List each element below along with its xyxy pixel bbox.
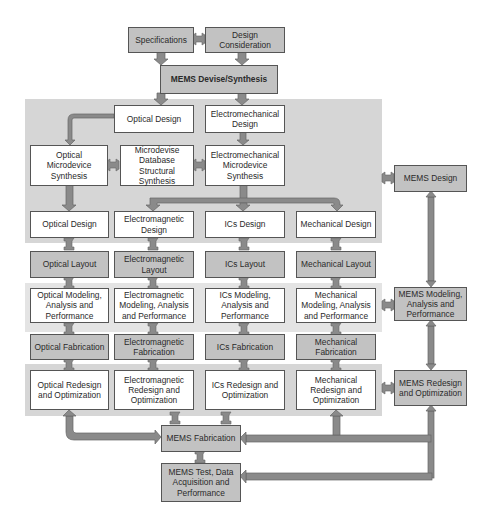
mems-fabrication-box: MEMS Fabrication [161, 425, 241, 452]
electromechanical-microdevice-synthesis-box: Electromechanical Microdevice Synthesis [205, 145, 285, 186]
mems-design-box: MEMS Design [394, 165, 467, 192]
mems-redesign-box: MEMS Redesign and Optimization [394, 370, 467, 406]
mechanical-fabrication-box: Mechanical Fabrication [296, 334, 376, 360]
mechanical-layout-box: Mechanical Layout [296, 251, 376, 278]
mechanical-design-box: Mechanical Design [296, 211, 376, 238]
mems-modeling-box: MEMS Modeling, Analysis and Performance [394, 287, 467, 321]
optical-microdevice-synthesis-box: Optical Microdevice Synthesis [30, 145, 108, 186]
ics-design-box: ICs Design [205, 211, 285, 238]
electromagnetic-fabrication-box: Electromagnetic Fabrication [114, 334, 194, 360]
mems-devise-synthesis-box: MEMS Devise/Synthesis [160, 65, 278, 94]
electromagnetic-redesign-box: Electromagnetic Redesign and Optimizatio… [114, 370, 194, 410]
ics-layout-box: ICs Layout [205, 251, 285, 278]
optical-modeling-box: Optical Modeling, Analysis and Performan… [30, 288, 109, 323]
optical-design-top-box: Optical Design [114, 105, 194, 133]
electromechanical-design-box: Electromechanical Design [205, 105, 285, 133]
ics-modeling-box: ICs Modeling, Analysis and Performance [205, 288, 285, 323]
optical-fabrication-box: Optical Fabrication [30, 334, 109, 360]
optical-design-box: Optical Design [30, 211, 109, 238]
ics-redesign-box: ICs Redesign and Optimization [205, 370, 285, 410]
optical-layout-box: Optical Layout [30, 251, 109, 278]
mechanical-modeling-box: Mechanical Modeling, Analysis and Perfor… [296, 288, 376, 323]
mechanical-redesign-box: Mechanical Redesign and Optimization [296, 370, 376, 410]
specifications-box: Specifications [128, 27, 194, 53]
microdevise-database-box: Microdevise Database Structural Synthesi… [120, 145, 194, 186]
electromagnetic-design-box: Electromagnetic Design [114, 211, 194, 238]
design-consideration-box: Design Consideration [205, 27, 285, 53]
electromagnetic-layout-box: Electromagnetic Layout [114, 251, 194, 278]
ics-fabrication-box: ICs Fabrication [205, 334, 285, 360]
mems-test-box: MEMS Test, Data Acquisition and Performa… [161, 463, 241, 502]
optical-redesign-box: Optical Redesign and Optimization [30, 370, 109, 410]
electromagnetic-modeling-box: Electromagnetic Modeling, Analysis and P… [114, 288, 194, 323]
